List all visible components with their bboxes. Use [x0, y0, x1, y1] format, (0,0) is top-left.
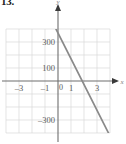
- x-axis-label: x: [119, 78, 124, 86]
- x-tick-label-minus3: –3: [14, 83, 24, 93]
- graph-figure: 13.: [0, 0, 126, 144]
- plotted-series: [56, 29, 111, 138]
- x-tick-label-1: 1: [69, 83, 73, 93]
- axis-names: y x: [55, 0, 124, 86]
- x-tick-label-minus1: –1: [40, 83, 50, 93]
- coordinate-plane-svg: 300 100 –300 –3 –1 0 1 3 y x: [0, 0, 126, 144]
- axes: [2, 4, 119, 142]
- y-tick-label-300: 300: [42, 37, 55, 47]
- x-tick-label-origin: 0: [59, 83, 63, 92]
- x-tick-label-3: 3: [95, 83, 99, 93]
- y-tick-label-minus300: –300: [37, 115, 55, 125]
- y-tick-label-100: 100: [42, 63, 55, 73]
- y-axis-label: y: [55, 0, 60, 6]
- x-axis-arrow-icon: [112, 78, 119, 84]
- problem-number-label: 13.: [1, 0, 14, 6]
- line-series-1: [56, 29, 111, 138]
